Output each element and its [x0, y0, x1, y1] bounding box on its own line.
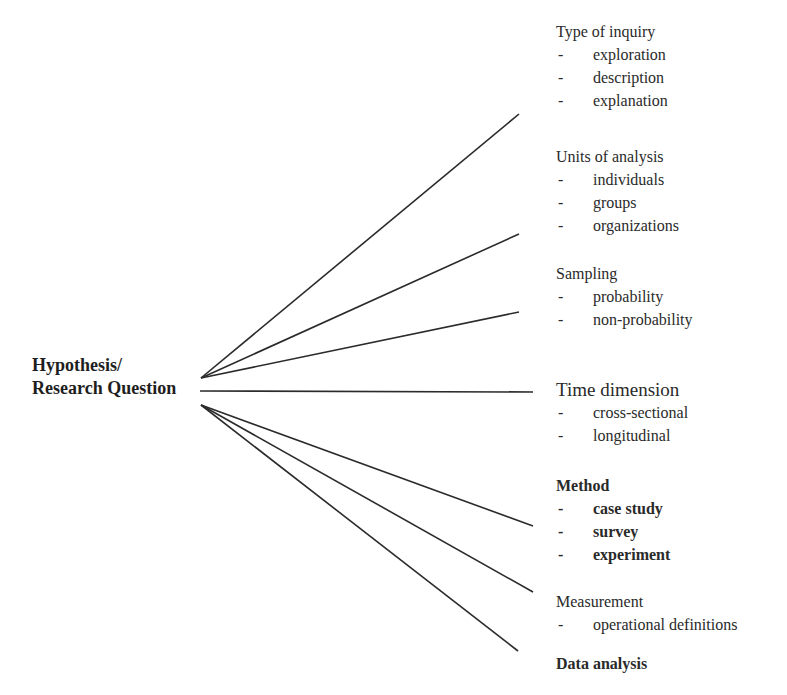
connector-type-of-inquiry — [201, 114, 519, 378]
list-item: -exploration — [556, 43, 668, 66]
connector-units-of-analysis — [201, 234, 519, 378]
list-item: -description — [556, 66, 668, 89]
group-title: Data analysis — [556, 652, 647, 675]
list-item: -probability — [556, 285, 693, 308]
list-item: -groups — [556, 191, 679, 214]
group-title: Method — [556, 474, 670, 497]
connector-time-dimension — [200, 391, 533, 392]
list-item: -organizations — [556, 214, 679, 237]
root-label-line1: Hypothesis/ — [32, 354, 176, 377]
group-type-of-inquiry: Type of inquiry -exploration -descriptio… — [556, 20, 668, 112]
list-item: -longitudinal — [556, 424, 688, 447]
list-item: -individuals — [556, 168, 679, 191]
group-sampling: Sampling -probability -non-probability — [556, 262, 693, 331]
group-units-of-analysis: Units of analysis -individuals -groups -… — [556, 145, 679, 237]
group-time-dimension: Time dimension -cross-sectional -longitu… — [556, 378, 688, 447]
connector-method — [201, 405, 533, 526]
group-measurement: Measurement -operational definitions — [556, 590, 737, 636]
root-node: Hypothesis/ Research Question — [32, 354, 176, 400]
list-item: -cross-sectional — [556, 401, 688, 424]
list-item: -case study — [556, 497, 670, 520]
group-title: Units of analysis — [556, 145, 679, 168]
list-item: -operational definitions — [556, 613, 737, 636]
list-item: -survey — [556, 520, 670, 543]
list-item: -experiment — [556, 543, 670, 566]
connector-sampling — [201, 312, 519, 378]
group-data-analysis: Data analysis — [556, 652, 647, 675]
group-title: Sampling — [556, 262, 693, 285]
list-item: -explanation — [556, 89, 668, 112]
connector-measurement — [201, 405, 533, 592]
list-item: -non-probability — [556, 308, 693, 331]
connector-data-analysis — [201, 405, 518, 651]
group-title: Measurement — [556, 590, 737, 613]
group-title: Time dimension — [556, 378, 688, 401]
group-method: Method -case study -survey -experiment — [556, 474, 670, 566]
group-title: Type of inquiry — [556, 20, 668, 43]
root-label-line2: Research Question — [32, 377, 176, 400]
